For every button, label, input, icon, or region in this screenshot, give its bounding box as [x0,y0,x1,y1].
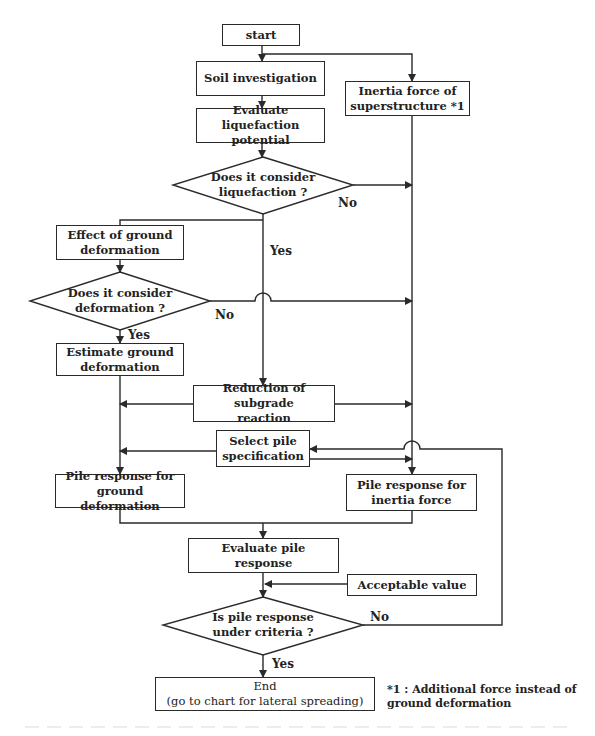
pile-response-ground-label: Pile response for ground deformation [60,469,180,514]
effect-ground-deformation-label: Effect of ground deformation [68,228,173,258]
pile-response-inertia-node: Pile response for inertia force [346,474,477,511]
deformation-yes-label: Yes [128,328,150,342]
estimate-ground-deformation-label: Estimate ground deformation [66,345,174,375]
decision-liquefaction-label: Does it consider liquefaction ? [193,170,333,200]
acceptable-value-node: Acceptable value [347,574,477,596]
evaluate-liquefaction-label: Evaluate liquefaction potential [201,103,320,148]
soil-investigation-label: Soil investigation [204,71,317,86]
bleed-through-artifact [25,726,570,728]
select-pile-label: Select pile specification [222,434,304,464]
decision-deformation-label: Does it consider deformation ? [50,286,190,316]
criteria-yes-label: Yes [272,657,294,671]
liquefaction-yes-label: Yes [270,244,292,258]
decision-criteria-label: Is pile response under criteria ? [193,610,333,640]
pile-response-inertia-label: Pile response for inertia force [357,478,466,508]
deformation-no-label: No [215,308,234,322]
select-pile-node: Select pile specification [216,430,310,467]
reduction-subgrade-label: Reduction of subgrade reaction [198,381,330,426]
evaluate-pile-response-node: Evaluate pile response [188,538,339,573]
acceptable-value-label: Acceptable value [358,578,467,593]
start-node-label: start [246,28,277,43]
footnote: *1 : Additional force instead of ground … [387,683,577,711]
liquefaction-no-label: No [338,196,357,210]
evaluate-pile-response-label: Evaluate pile response [193,541,334,571]
estimate-ground-deformation-node: Estimate ground deformation [56,343,184,376]
start-node: start [222,24,300,46]
end-node: End (go to chart for lateral spreading) [155,677,375,711]
criteria-no-label: No [370,610,389,624]
evaluate-liquefaction-node: Evaluate liquefaction potential [196,108,325,143]
inertia-force-node: Inertia force of superstructure *1 [345,81,470,116]
flowchart-canvas: start Soil investigation Inertia force o… [0,0,595,736]
effect-ground-deformation-node: Effect of ground deformation [56,225,184,260]
inertia-force-label: Inertia force of superstructure *1 [350,84,465,114]
end-node-label: End (go to chart for lateral spreading) [167,679,364,709]
reduction-subgrade-node: Reduction of subgrade reaction [193,385,335,422]
pile-response-ground-node: Pile response for ground deformation [55,474,185,508]
soil-investigation-node: Soil investigation [196,61,325,96]
